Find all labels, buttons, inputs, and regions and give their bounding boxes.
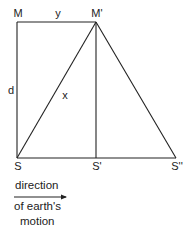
label-S-double-prime: S'': [171, 160, 183, 172]
diagram-canvas: M y M' d x S S' S'' direction of earth's…: [0, 0, 191, 234]
label-M-prime: M': [91, 7, 102, 19]
label-M: M: [13, 7, 22, 19]
caption-direction: direction: [15, 179, 58, 191]
segment-S-Mprime: [17, 22, 96, 158]
label-S-prime: S': [92, 160, 101, 172]
label-y: y: [55, 7, 61, 19]
caption-of-earths: of earth's: [14, 200, 61, 212]
segment-Mprime-Sdoubleprime: [96, 22, 176, 158]
label-d: d: [8, 84, 14, 96]
caption-motion: motion: [20, 215, 55, 227]
label-S: S: [14, 160, 21, 172]
label-x: x: [62, 89, 68, 101]
